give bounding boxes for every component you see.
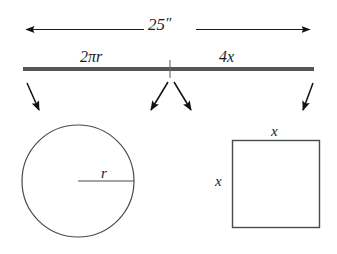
arrow-to-circle-left [27, 83, 39, 110]
dimension-value: 25 [148, 15, 165, 34]
inch-symbol: ″ [165, 15, 172, 31]
figure-canvas [0, 0, 337, 254]
square-figure [233, 141, 320, 228]
segment-label-circumference: 2πr [80, 49, 102, 65]
square-left-side-label: x [215, 174, 222, 189]
pointer-arrows [27, 82, 313, 110]
arrow-to-square-right [303, 83, 313, 110]
square-top-side-label: x [271, 124, 278, 139]
geometry-diagram: 25″ 2πr 4x r x x [0, 0, 337, 254]
square-outline [233, 141, 320, 228]
segment-label-perimeter: 4x [219, 49, 234, 65]
arrow-to-square-left [174, 82, 191, 110]
circle-radius-label: r [101, 166, 107, 181]
dimension-label-total: 25″ [148, 16, 172, 33]
circle-figure [22, 125, 134, 237]
arrow-to-circle-right [151, 82, 168, 110]
segment-bar [23, 60, 314, 78]
